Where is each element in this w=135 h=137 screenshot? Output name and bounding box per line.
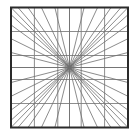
ray-line (11, 68, 70, 97)
ray-line (41, 8, 69, 68)
ray-line (11, 68, 70, 121)
ray-line (11, 68, 70, 128)
ray-line (70, 8, 129, 68)
ray-line (70, 68, 129, 121)
ray-line (41, 68, 69, 128)
ray-line (11, 8, 70, 68)
ray-line (70, 68, 129, 97)
diagram-canvas (0, 0, 135, 137)
radiating-rays (11, 8, 128, 128)
ray-line (70, 39, 129, 68)
star-grid-diagram (0, 0, 135, 137)
ray-line (70, 68, 129, 128)
ray-line (70, 15, 129, 68)
ray-line (11, 39, 70, 68)
ray-line (70, 68, 98, 128)
ray-line (11, 15, 70, 68)
ray-line (70, 8, 98, 68)
